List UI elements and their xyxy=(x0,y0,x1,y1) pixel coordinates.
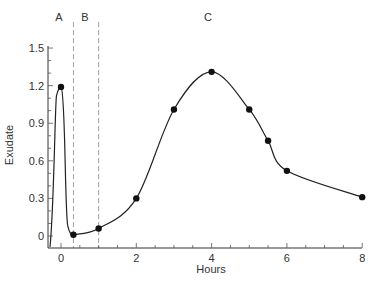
y-axis-title: Exudate xyxy=(3,125,15,165)
data-point xyxy=(359,194,365,200)
x-axis-title: Hours xyxy=(196,263,226,275)
data-points xyxy=(58,69,366,238)
data-point xyxy=(208,69,214,75)
region-dividers xyxy=(73,22,98,248)
region-label-a: A xyxy=(55,11,63,23)
y-tick-label: 1.5 xyxy=(29,42,44,54)
data-point xyxy=(133,195,139,201)
x-axis: 02468 xyxy=(48,243,365,264)
data-point xyxy=(284,168,290,174)
x-tick-label: 0 xyxy=(58,252,64,264)
region-labels: ABC xyxy=(55,11,212,23)
data-point xyxy=(265,138,271,144)
data-point xyxy=(171,106,177,112)
y-tick-label: 0 xyxy=(38,230,44,242)
x-tick-label: 8 xyxy=(359,252,365,264)
data-point xyxy=(246,106,252,112)
region-label-b: B xyxy=(81,11,88,23)
data-point xyxy=(95,225,101,231)
x-tick-label: 2 xyxy=(133,252,139,264)
data-point xyxy=(70,232,76,238)
region-label-c: C xyxy=(204,11,212,23)
line-chart: ABC 00.30.60.91.21.5 02468 Hours Exudate xyxy=(0,0,375,290)
y-tick-label: 1.2 xyxy=(29,80,44,92)
y-tick-label: 0.9 xyxy=(29,117,44,129)
data-curve xyxy=(50,72,362,247)
y-tick-label: 0.3 xyxy=(29,192,44,204)
x-tick-label: 6 xyxy=(284,252,290,264)
y-axis: 00.30.60.91.21.5 xyxy=(29,42,53,248)
y-tick-label: 0.6 xyxy=(29,155,44,167)
data-point xyxy=(58,84,64,90)
